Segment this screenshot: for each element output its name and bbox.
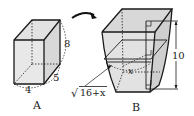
- diagram-canvas: 8 5 4 A: [0, 0, 194, 116]
- container-b-height-label: 10: [172, 50, 185, 61]
- box-a-width-label: 4: [25, 84, 31, 95]
- sqrt-symbol: √: [71, 87, 79, 100]
- transform-arrow-icon: [72, 12, 97, 19]
- variable-x-label: x: [128, 66, 133, 76]
- container-b: [102, 9, 178, 92]
- figure-b-label: B: [132, 101, 140, 114]
- expression-leader-line: [85, 66, 111, 86]
- box-a-front-face: [14, 40, 44, 84]
- box-a-depth-label: 5: [53, 72, 59, 83]
- figure-a-label: A: [32, 99, 42, 112]
- sqrt-radicand: 16+x: [80, 87, 106, 98]
- box-a-height-label: 8: [64, 38, 70, 49]
